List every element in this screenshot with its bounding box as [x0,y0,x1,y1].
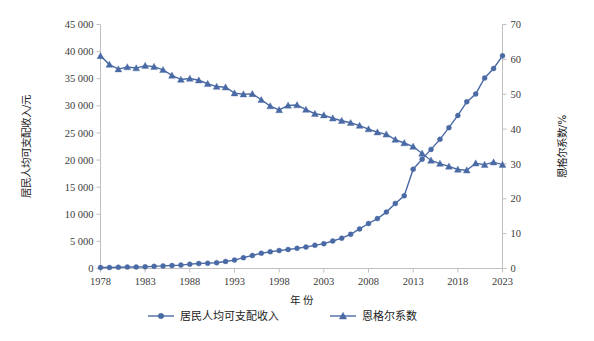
left-tick-label: 15 000 [65,182,94,193]
left-tick-label: 30 000 [65,100,94,111]
legend-label: 居民人均可支配收入 [180,309,279,323]
data-point-circle [277,248,282,253]
x-tick-label: 2018 [447,276,468,287]
data-point-circle [375,216,380,221]
left-tick-label: 35 000 [65,73,94,84]
data-point-circle [107,265,112,270]
x-tick-label: 2003 [313,276,334,287]
data-point-circle [232,258,237,263]
x-tick-label: 1983 [135,276,156,287]
right-tick-label: 0 [511,263,516,274]
data-point-triangle [392,136,399,142]
x-axis-title: 年 份 [290,294,314,306]
data-point-circle [134,264,139,269]
left-tick-label: 45 000 [65,19,94,30]
right-tick-label: 10 [511,228,522,239]
data-point-circle [437,137,442,142]
x-tick-label: 2008 [358,276,379,287]
left-tick-label: 25 000 [65,128,94,139]
legend-item-1[interactable]: 居民人均可支配收入 [148,309,279,323]
axis-titles: 居民人均可支配收入/元恩格尔系数/%年 份 [20,94,568,306]
data-point-circle [161,263,166,268]
right-tick-label: 40 [511,124,522,135]
data-point-circle [393,201,398,206]
data-point-circle [241,255,246,260]
data-point-circle [500,53,505,58]
left-tick-label: 40 000 [65,46,94,57]
data-point-circle [196,261,201,266]
data-point-circle [268,249,273,254]
x-tick-label: 1978 [90,276,111,287]
right-tick-label: 20 [511,193,522,204]
left-tick-label: 10 000 [65,209,94,220]
left-tick-label: 20 000 [65,155,94,166]
series-line [101,56,503,170]
data-point-circle [125,265,130,270]
data-point-triangle [258,96,265,102]
series-engel [97,52,506,173]
data-point-circle [178,263,183,268]
right-axis-ticks: 010203040506070 [503,19,522,274]
data-point-circle [312,243,317,248]
data-point-circle [187,262,192,267]
legend-label: 恩格尔系数 [362,309,417,323]
data-point-circle [223,259,228,264]
data-point-circle [357,226,362,231]
data-point-circle [259,251,264,256]
data-point-circle [116,265,121,270]
data-point-circle [482,76,487,81]
data-point-circle [473,91,478,96]
data-point-circle [446,125,451,130]
right-tick-label: 60 [511,54,522,65]
series-layer [97,52,506,270]
left-tick-label: 0 [88,263,93,274]
data-point-circle [303,245,308,250]
data-point-triangle [490,159,497,165]
data-point-circle [286,247,291,252]
data-point-circle [295,246,300,251]
data-point-triangle [303,106,310,112]
data-point-circle [250,253,255,258]
data-point-circle [152,264,157,269]
series-income [98,53,505,270]
x-axis-ticks: 1978198319881993199820032008201320182023 [90,269,513,287]
data-point-circle [348,232,353,237]
data-point-circle [339,236,344,241]
chart-legend: 居民人均可支配收入恩格尔系数 [148,309,417,323]
x-tick-label: 1993 [224,276,245,287]
left-tick-label: 5 000 [70,236,94,247]
legend-item-2[interactable]: 恩格尔系数 [330,309,417,323]
data-point-circle [464,99,469,104]
data-point-circle [321,241,326,246]
data-point-circle [455,113,460,118]
data-point-triangle [169,72,176,78]
x-tick-label: 1998 [269,276,290,287]
left-axis-ticks: 05 00010 00015 00020 00025 00030 00035 0… [65,19,101,274]
dual-axis-line-chart: 05 00010 00015 00020 00025 00030 00035 0… [0,0,594,341]
right-axis-title: 恩格尔系数/% [556,115,568,179]
right-tick-label: 70 [511,19,522,30]
data-point-circle [330,239,335,244]
data-point-circle [214,260,219,265]
data-point-circle [205,261,210,266]
data-point-circle [169,263,174,268]
data-point-circle [491,66,496,71]
data-point-circle [429,147,434,152]
series-line [101,56,503,268]
chart-container: 05 00010 00015 00020 00025 00030 00035 0… [0,0,594,341]
x-tick-label: 2023 [492,276,513,287]
right-tick-label: 50 [511,89,522,100]
data-point-circle [158,313,164,319]
data-point-circle [143,264,148,269]
data-point-triangle [97,52,104,58]
right-tick-label: 30 [511,159,522,170]
data-point-circle [366,221,371,226]
data-point-circle [411,167,416,172]
data-point-circle [98,265,103,270]
plot-frame [101,25,503,269]
left-axis-title: 居民人均可支配收入/元 [20,94,32,199]
x-tick-label: 2013 [403,276,424,287]
data-point-circle [384,210,389,215]
x-tick-label: 1988 [179,276,200,287]
data-point-circle [402,193,407,198]
